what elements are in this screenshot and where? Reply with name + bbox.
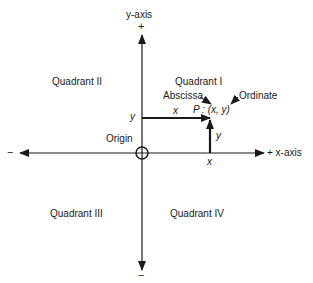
y-axis-tick-label: y: [130, 112, 135, 122]
origin-label: Origin: [106, 134, 133, 144]
x-segment-label: x: [173, 106, 178, 116]
x-negative-sign: −: [7, 147, 13, 158]
x-axis-tick-label: x: [207, 157, 212, 167]
ordinate-label: Ordinate: [239, 91, 277, 101]
y-axis-label: y-axis: [126, 10, 152, 20]
quadrant-ii-label: Quadrant II: [52, 77, 102, 87]
quadrant-iii-label: Quadrant III: [50, 209, 103, 219]
y-negative-sign: −: [138, 270, 144, 281]
ordinate-pointer: [231, 97, 238, 104]
point-p-label: P : (x, y): [193, 105, 230, 115]
y-positive-sign: +: [138, 21, 144, 32]
x-axis-label: + x-axis: [267, 148, 302, 158]
cartesian-coordinate-diagram: y-axis + − − + x-axis Quadrant II Quadra…: [0, 0, 313, 283]
quadrant-i-label: Quadrant I: [175, 77, 222, 87]
quadrant-iv-label: Quadrant IV: [170, 209, 224, 219]
axes-graphic: [0, 0, 313, 283]
y-segment-label: y: [216, 131, 221, 141]
abscissa-label: Abscissa: [163, 91, 203, 101]
